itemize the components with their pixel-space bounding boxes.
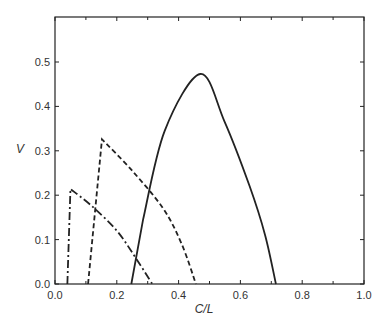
x-tick-label: 0.8 [295, 289, 310, 301]
x-axis-ticks: 0.00.20.40.60.81.0 [47, 17, 371, 301]
series-solid-line [131, 74, 276, 284]
y-tick-label: 0.5 [35, 56, 50, 68]
x-tick-label: 1.0 [356, 289, 371, 301]
y-tick-label: 0.1 [35, 234, 50, 246]
plot-border [55, 17, 364, 284]
data-series [67, 74, 276, 284]
y-axis-ticks: 0.00.10.20.30.40.5 [35, 56, 364, 290]
x-axis-label: C/L [195, 302, 214, 316]
plot-frame [55, 17, 364, 284]
y-axis-label: V [16, 142, 25, 156]
x-tick-label: 0.0 [47, 289, 62, 301]
series-dashed-line [88, 139, 196, 284]
y-tick-label: 0.2 [35, 189, 50, 201]
y-tick-label: 0.3 [35, 145, 50, 157]
x-tick-label: 0.4 [171, 289, 186, 301]
y-tick-label: 0.0 [35, 278, 50, 290]
y-tick-label: 0.4 [35, 100, 50, 112]
x-tick-label: 0.6 [233, 289, 248, 301]
x-tick-label: 0.2 [109, 289, 124, 301]
line-chart: 0.00.20.40.60.81.0 0.00.10.20.30.40.5 C/… [0, 0, 388, 328]
